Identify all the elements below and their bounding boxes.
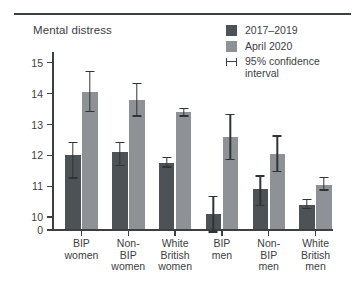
y-axis-tick [47, 124, 52, 125]
x-axis-category-label: WhiteBritishwomen [158, 238, 192, 273]
error-bar [129, 83, 145, 117]
error-bar [206, 196, 222, 233]
bar [316, 185, 332, 230]
x-axis-category-line: women [64, 250, 98, 262]
x-axis-tick [174, 231, 175, 236]
error-bar [82, 71, 98, 113]
error-bar [65, 142, 81, 179]
x-axis-category-line: women [111, 261, 145, 273]
x-axis-tick [81, 231, 82, 236]
chart-title: Mental distress [33, 24, 112, 36]
y-axis-tick [47, 93, 52, 94]
x-axis-category-label: BIPwomen [64, 238, 98, 261]
bar [159, 163, 175, 229]
bar [129, 100, 145, 230]
x-axis-category-line: Non- [111, 238, 145, 250]
x-axis-category-line: White [158, 238, 192, 250]
x-axis-category-line: men [257, 261, 280, 273]
figure-top-rule [14, 13, 351, 15]
y-axis-tick-label: 14 [31, 88, 43, 100]
legend-label: 2017–2019 [245, 24, 298, 36]
square-swatch-icon [226, 41, 237, 52]
y-axis-tick-label: 15 [31, 57, 43, 69]
y-axis-line [52, 52, 54, 231]
y-axis-tick-label: 0 [37, 224, 43, 236]
error-bar [223, 114, 239, 160]
error-bar [112, 142, 128, 167]
y-axis-tick [47, 155, 52, 156]
x-axis-category-label: Non-BIPmen [257, 238, 280, 273]
error-bar [270, 135, 286, 172]
x-axis-category-label: WhiteBritishmen [301, 238, 330, 273]
x-axis-category-line: women [158, 261, 192, 273]
x-axis-tick [315, 231, 316, 236]
error-bar [176, 108, 192, 117]
y-axis-tick [47, 62, 52, 63]
plot-area: 0101112131415 [52, 52, 333, 231]
error-bar [159, 157, 175, 168]
bar [82, 92, 98, 229]
x-axis-tick [221, 231, 222, 236]
y-axis-tick [47, 186, 52, 187]
chart-figure: Mental distress 2017–2019 April 2020 95%… [0, 0, 364, 288]
x-axis-category-line: men [301, 261, 330, 273]
legend-item-april-2020: April 2020 [226, 40, 354, 52]
x-axis-category-line: BIP [64, 238, 98, 250]
y-axis-tick-label: 12 [31, 149, 43, 161]
square-swatch-icon [226, 25, 237, 36]
y-axis-tick-label: 10 [31, 211, 43, 223]
bar [176, 112, 192, 229]
x-axis-category-line: White [301, 238, 330, 250]
x-axis-tick [128, 231, 129, 236]
x-axis-category-line: men [212, 250, 232, 262]
legend-item-2017-2019: 2017–2019 [226, 24, 354, 36]
y-axis-tick [47, 216, 52, 217]
legend-label: April 2020 [245, 40, 292, 52]
x-axis-line [52, 229, 333, 231]
error-bar [316, 177, 332, 191]
error-bar [299, 199, 315, 210]
x-axis-category-line: Non- [257, 238, 280, 250]
x-axis-category-line: BIP [212, 238, 232, 250]
x-axis-category-label: Non-BIPwomen [111, 238, 145, 273]
error-bar [253, 175, 269, 206]
x-axis-tick [268, 231, 269, 236]
y-axis-tick [47, 229, 52, 230]
y-axis-tick-label: 11 [32, 180, 43, 192]
y-axis-tick-label: 13 [31, 119, 43, 131]
x-axis-category-label: BIPmen [212, 238, 232, 261]
